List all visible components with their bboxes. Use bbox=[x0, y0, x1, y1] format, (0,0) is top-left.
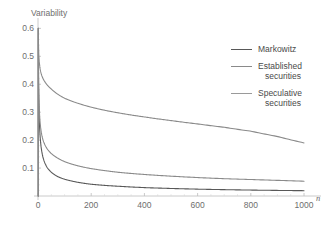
x-tick-label: 1000 bbox=[284, 201, 324, 210]
x-tick-label: 0 bbox=[18, 201, 58, 210]
x-tick-label: 600 bbox=[178, 201, 218, 210]
legend-label: Speculativesecurities bbox=[258, 88, 302, 108]
legend-label: Establishedsecurities bbox=[258, 61, 302, 81]
legend-label-line2: securities bbox=[258, 71, 302, 81]
y-tick-label: 0.4 bbox=[8, 80, 34, 89]
x-tick-label: 800 bbox=[231, 201, 271, 210]
x-tick-label: 400 bbox=[124, 201, 164, 210]
variability-vs-n-chart: Variability n 0.10.20.30.40.50.6 0200400… bbox=[0, 0, 329, 227]
legend-item[interactable]: Markowitz bbox=[231, 44, 327, 54]
y-tick-label: 0.3 bbox=[8, 108, 34, 117]
legend-item[interactable]: Establishedsecurities bbox=[231, 61, 327, 81]
legend-item[interactable]: Speculativesecurities bbox=[231, 88, 327, 108]
legend-color-swatch bbox=[231, 49, 252, 51]
legend-color-swatch bbox=[231, 66, 252, 68]
chart-legend: MarkowitzEstablishedsecuritiesSpeculativ… bbox=[231, 44, 327, 115]
x-tick-label: 200 bbox=[71, 201, 111, 210]
legend-color-swatch bbox=[231, 93, 252, 95]
y-tick-label: 0.6 bbox=[8, 24, 34, 33]
legend-label-line2: securities bbox=[258, 98, 302, 108]
y-tick-label: 0.2 bbox=[8, 136, 34, 145]
y-tick-label: 0.5 bbox=[8, 52, 34, 61]
y-axis-title: Variability bbox=[31, 9, 67, 18]
legend-label: Markowitz bbox=[258, 44, 296, 54]
y-tick-label: 0.1 bbox=[8, 164, 34, 173]
